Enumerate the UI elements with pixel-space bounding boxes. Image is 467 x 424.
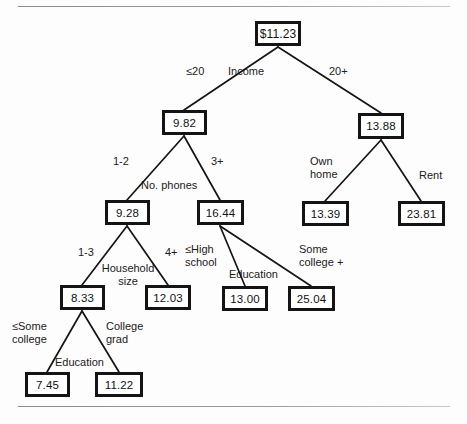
label-income-left: ≤20 — [186, 65, 204, 78]
node-phones-high: 16.44 — [197, 200, 244, 225]
label-education-low-split: Education — [55, 356, 104, 369]
label-phones-split: No. phones — [141, 179, 197, 192]
label-phones-right: 3+ — [211, 155, 224, 168]
label-income-right: 20+ — [329, 65, 348, 78]
node-education-some-low: 7.45 — [25, 372, 70, 397]
node-rent: 23.81 — [398, 201, 445, 226]
label-tenure-right: Rent — [419, 169, 442, 182]
label-education-mid-split: Education — [229, 268, 278, 281]
label-phones-left: 1-2 — [113, 155, 129, 168]
label-income-split: Income — [228, 65, 264, 78]
label-household-split: Household size — [97, 262, 159, 287]
node-phones-low: 9.28 — [105, 200, 150, 225]
node-household-large: 12.03 — [145, 285, 191, 310]
label-tenure-left: Own home — [310, 155, 338, 180]
edge-income-high-to-rent — [381, 140, 421, 201]
label-education-low-right: College grad — [106, 320, 143, 345]
decision-tree-figure: $11.23 9.82 13.88 9.28 16.44 13.39 23.81… — [0, 0, 467, 424]
edge-root-to-income-high — [278, 47, 381, 113]
label-education-mid-left: ≤High school — [185, 243, 217, 268]
node-income-low: 9.82 — [162, 110, 207, 135]
label-household-right: 4+ — [165, 246, 178, 259]
node-education-highschool: 13.00 — [222, 286, 268, 311]
node-education-grad: 11.22 — [95, 372, 143, 397]
node-education-somecollege: 25.04 — [288, 286, 335, 311]
node-household-small: 8.33 — [60, 285, 105, 310]
label-education-mid-right: Some college + — [299, 243, 343, 268]
label-education-low-left: ≤Some college — [12, 320, 47, 345]
edge-root-to-income-low — [184, 47, 278, 110]
node-root: $11.23 — [255, 21, 301, 46]
node-income-high: 13.88 — [358, 113, 404, 139]
node-own-home: 13.39 — [302, 201, 349, 226]
label-household-left: 1-3 — [78, 246, 94, 259]
